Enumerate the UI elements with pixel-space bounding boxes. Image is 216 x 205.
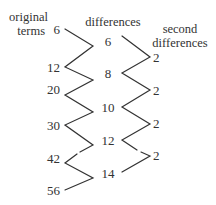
zigzag-original-to-differences-lower (65, 154, 93, 190)
zigzag-differences-to-second (122, 36, 150, 150)
zigzag-original-to-differences (65, 29, 93, 152)
zigzag-connectors (0, 0, 216, 205)
zigzag-differences-to-second-lower (122, 152, 150, 172)
